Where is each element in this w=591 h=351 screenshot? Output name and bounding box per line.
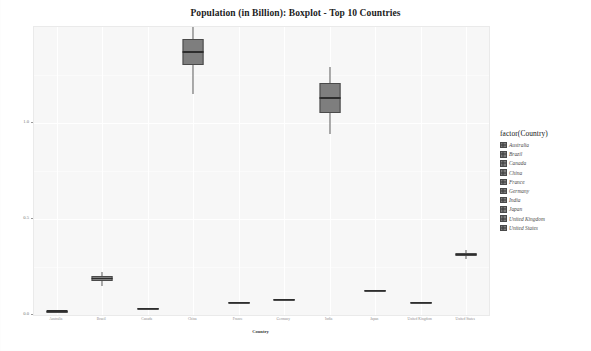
median-line [365,290,386,292]
legend-item[interactable]: Australia [500,141,588,150]
x-tick-label: Germany [257,317,309,321]
median-line [46,310,67,312]
legend-item-label: Canada [509,160,526,166]
legend-item[interactable]: India [500,196,588,205]
median-line [92,278,113,280]
whisker-upper [329,67,330,82]
legend-item[interactable]: Germany [500,186,588,195]
legend-key-swatch [500,169,507,176]
y-tick-label: 1.0 [23,119,29,124]
x-tick-label: France [212,317,264,321]
x-tick-label: United Kingdom [394,317,446,321]
boxplot-box[interactable] [307,27,353,315]
y-tick-label: 0.5 [23,215,29,220]
legend-item[interactable]: United Kingdom [500,214,588,223]
x-tick-label: Japan [348,317,400,321]
median-line [319,97,340,99]
whisker-upper [193,27,194,39]
legend-items: AustraliaBrazilCanadaChinaFranceGermanyI… [500,141,588,233]
chart-title: Population (in Billion): Boxplot - Top 1… [0,8,591,18]
whisker-lower [102,281,103,286]
legend-item-label: Germany [509,188,529,194]
whisker-lower [193,65,194,94]
legend-key-swatch [500,215,507,222]
legend-key-swatch [500,206,507,213]
median-line [228,302,249,304]
whisker-lower [329,113,330,134]
legend-item-label: China [509,170,522,176]
boxplot-box[interactable] [216,27,262,315]
legend-item-label: Australia [509,142,529,148]
gridline-horizontal-major [34,315,489,316]
plot-panel [33,26,490,316]
legend-key-swatch [500,179,507,186]
legend-item-label: France [509,179,525,185]
x-tick-label: Australia [30,317,82,321]
boxplot-box[interactable] [262,27,308,315]
legend-key-swatch [500,188,507,195]
boxplot-box[interactable] [398,27,444,315]
x-tick-label: United States [439,317,491,321]
boxplot-box[interactable] [444,27,490,315]
legend-item[interactable]: United States [500,223,588,232]
legend-item-label: United States [509,225,538,231]
legend-item-label: Japan [509,206,522,212]
legend-key-swatch [500,151,507,158]
x-axis-title: Country [0,329,521,334]
boxplot-box[interactable] [34,27,80,315]
whisker-lower [466,256,467,259]
x-tick-label: China [166,317,218,321]
boxplot-box[interactable] [171,27,217,315]
legend-item-label: Brazil [509,151,522,157]
x-tick-label: Brazil [75,317,127,321]
median-line [183,51,204,53]
legend-key-swatch [500,160,507,167]
legend-item-label: India [509,197,520,203]
legend-item-label: United Kingdom [509,216,545,222]
legend-item[interactable]: France [500,177,588,186]
legend-item[interactable]: Canada [500,159,588,168]
boxplot-box[interactable] [80,27,126,315]
legend-item[interactable]: Brazil [500,150,588,159]
legend-key-swatch [500,197,507,204]
median-line [410,302,431,304]
chart-canvas: Population (in Billion): Boxplot - Top 1… [0,0,591,351]
y-tick-label: 0.0 [23,311,29,316]
legend-key-swatch [500,225,507,232]
boxplot-box[interactable] [125,27,171,315]
legend-key-swatch [500,142,507,149]
x-tick-label: Canada [121,317,173,321]
x-tick-label: India [303,317,355,321]
legend-item[interactable]: Japan [500,205,588,214]
boxplot-box[interactable] [353,27,399,315]
median-line [137,308,158,310]
legend: factor(Country) AustraliaBrazilCanadaChi… [500,129,588,232]
median-line [274,299,295,301]
median-line [456,254,477,256]
legend-title: factor(Country) [500,129,588,138]
legend-item[interactable]: China [500,168,588,177]
